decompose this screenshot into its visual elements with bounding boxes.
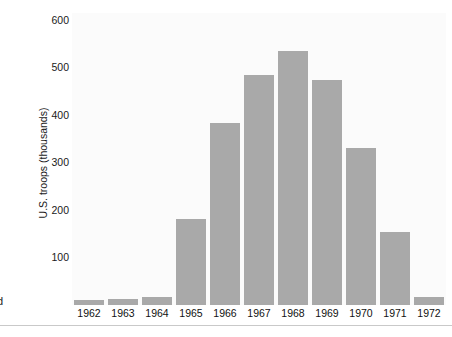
chart-figure: d U.S. troops (thousands) 10020030040050… — [0, 0, 452, 337]
bar-slot — [346, 13, 376, 305]
bar — [142, 297, 172, 305]
bar-slot — [414, 13, 444, 305]
bar-slot — [278, 13, 308, 305]
bar-slot — [108, 13, 138, 305]
y-axis-tick-label: 100 — [29, 252, 69, 263]
bar — [74, 300, 104, 305]
y-axis-tick-label: 600 — [29, 15, 69, 26]
bar-slot — [210, 13, 240, 305]
bar-slot — [176, 13, 206, 305]
bar — [414, 297, 444, 305]
y-axis-tick-label: 500 — [29, 62, 69, 73]
bar — [210, 123, 240, 305]
bar — [244, 75, 274, 305]
bar — [346, 148, 376, 305]
clipped-text-fragment: d — [0, 295, 3, 307]
bar — [176, 219, 206, 305]
y-axis-tick-label: 400 — [29, 110, 69, 121]
y-axis-tick-label: 300 — [29, 157, 69, 168]
bar-slot — [312, 13, 342, 305]
bar-slot — [74, 13, 104, 305]
bar-series — [72, 13, 446, 305]
bar-slot — [142, 13, 172, 305]
bar — [312, 80, 342, 305]
bar-slot — [380, 13, 410, 305]
bar — [380, 232, 410, 305]
y-axis-tick-label: 200 — [29, 205, 69, 216]
bar-slot — [244, 13, 274, 305]
bar — [278, 51, 308, 305]
x-axis-tick-label: 1972 — [409, 307, 449, 319]
bar — [108, 299, 138, 305]
footer-divider — [0, 325, 452, 326]
